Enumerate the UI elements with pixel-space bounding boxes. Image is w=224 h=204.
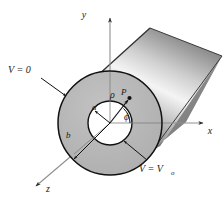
phi-label: ϕ	[124, 111, 129, 122]
x-axis-label: x	[207, 125, 213, 136]
cylinder-diagram: y x z V = 0 V = V o a b ρ ϕ P	[0, 0, 224, 204]
point-p-marker	[127, 96, 131, 100]
v-zero-leader	[41, 78, 66, 96]
z-axis-label: z	[45, 183, 50, 194]
figure-container: y x z V = 0 V = V o a b ρ ϕ P	[0, 0, 224, 204]
v-zero-label: V = 0	[8, 64, 31, 75]
v-zero-arrow	[41, 78, 66, 96]
v-o-label-subscript: o	[171, 169, 175, 177]
v-o-label-main: V = V	[139, 163, 165, 174]
rho-label: ρ	[109, 89, 115, 100]
v-o-label: V = V o	[139, 163, 175, 177]
y-axis-label: y	[81, 9, 87, 20]
point-p-label: P	[120, 87, 127, 97]
radius-b-label: b	[66, 130, 71, 140]
radius-a-label: a	[92, 102, 97, 112]
